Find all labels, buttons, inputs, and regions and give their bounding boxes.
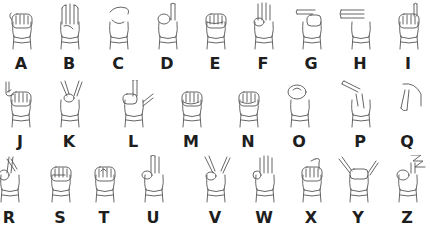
hand-fist-three-over-icon <box>169 80 213 128</box>
letter-label: Y <box>336 210 380 226</box>
letter-label: Q <box>385 134 429 150</box>
hand-pinky-hook-icon <box>0 80 42 128</box>
hand-pinky-up-icon <box>386 2 430 50</box>
letter-label: L <box>111 134 155 150</box>
letter-label: T <box>82 210 126 226</box>
hand-hooked-index-icon <box>289 155 333 203</box>
letter-label: P <box>338 134 382 150</box>
hand-fist-thumb-between-icon <box>82 155 126 203</box>
hand-two-up-v-thumb-icon <box>47 80 91 128</box>
hand-two-sideways-icon <box>338 2 382 50</box>
letter-label: S <box>38 210 82 226</box>
hand-thumb-pinky-out-icon <box>336 155 380 203</box>
letter-label: N <box>226 134 270 150</box>
letter-label: H <box>338 56 382 72</box>
hand-l-shape-icon <box>111 80 155 128</box>
hand-down-thumb-index-icon <box>385 80 429 128</box>
letter-label: J <box>0 134 42 150</box>
letter-label: K <box>47 134 91 150</box>
hand-fingers-curled-icon <box>193 2 237 50</box>
letter-label: O <box>277 134 321 150</box>
hand-crossed-fingers-icon <box>0 155 31 203</box>
hand-fist-two-over-icon <box>226 80 270 128</box>
letter-label: E <box>193 56 237 72</box>
letter-label: D <box>145 56 189 72</box>
hand-index-sideways-icon <box>289 2 333 50</box>
letter-label: U <box>131 210 175 226</box>
hand-flat-hand-thumb-in-icon <box>47 2 91 50</box>
letter-label: F <box>241 56 285 72</box>
hand-index-up-icon <box>145 2 189 50</box>
letter-label: B <box>47 56 91 72</box>
hand-curved-c-icon <box>96 2 140 50</box>
hand-index-zigzag-icon <box>385 155 429 203</box>
hand-three-up-ok-icon <box>241 2 285 50</box>
letter-label: I <box>386 56 430 72</box>
letter-label: C <box>96 56 140 72</box>
letter-label: R <box>0 210 31 226</box>
hand-three-up-icon <box>242 155 286 203</box>
letter-label: M <box>169 134 213 150</box>
hand-two-up-together-icon <box>131 155 175 203</box>
hand-two-up-v-icon <box>193 155 237 203</box>
letter-label: W <box>242 210 286 226</box>
letter-label: X <box>289 210 333 226</box>
hand-fist-thumb-side-icon <box>0 2 43 50</box>
hand-down-index-icon <box>338 80 382 128</box>
hand-o-shape-icon <box>277 80 321 128</box>
letter-label: Z <box>385 210 429 226</box>
letter-label: G <box>289 56 333 72</box>
letter-label: V <box>193 210 237 226</box>
letter-label: A <box>0 56 43 72</box>
hand-fist-thumb-front-icon <box>38 155 82 203</box>
